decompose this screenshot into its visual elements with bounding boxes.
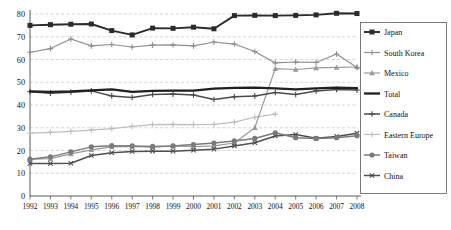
x-axis-label-1998: 1998 xyxy=(145,202,160,211)
series-point-south-korea-1992 xyxy=(27,49,33,55)
legend-item-eastern-europe[interactable]: Eastern Europe xyxy=(364,131,434,140)
chart-svg: 0102030405060708019921993199419951996199… xyxy=(0,0,451,230)
legend-item-south-korea[interactable]: South Korea xyxy=(364,49,425,58)
x-axis-label-2001: 2001 xyxy=(207,202,222,211)
series-point-canada-2001 xyxy=(211,97,217,103)
series-point-south-korea-1995 xyxy=(89,43,95,49)
series-point-eastern-europe-1999 xyxy=(170,122,176,128)
series-point-eastern-europe-1996 xyxy=(109,126,115,132)
series-point-south-korea-1997 xyxy=(129,44,135,50)
x-axis-label-1994: 1994 xyxy=(63,202,78,211)
series-point-japan-2003 xyxy=(252,13,257,18)
series-point-south-korea-2004 xyxy=(272,60,278,66)
y-axis-tick-10: 10 xyxy=(17,169,25,178)
y-axis-tick-50: 50 xyxy=(17,78,25,87)
series-point-south-korea-1999 xyxy=(170,42,176,48)
y-axis-tick-70: 70 xyxy=(17,33,25,42)
series-point-canada-1996 xyxy=(109,93,115,99)
series-taiwan xyxy=(27,130,359,162)
series-point-taiwan-2006 xyxy=(314,136,319,141)
x-axis-label-1999: 1999 xyxy=(166,202,181,211)
series-south-korea xyxy=(27,36,360,70)
series-point-japan-2005 xyxy=(293,13,298,18)
y-axis-tick-30: 30 xyxy=(17,124,25,133)
series-point-japan-1994 xyxy=(68,22,73,27)
series-point-japan-1998 xyxy=(150,26,155,31)
legend-item-total[interactable]: Total xyxy=(364,90,401,99)
series-line-total xyxy=(30,88,357,92)
x-axis-label-2003: 2003 xyxy=(247,202,262,211)
x-axis-label-2002: 2002 xyxy=(227,202,242,211)
legend-item-canada[interactable]: Canada xyxy=(364,110,408,119)
series-point-south-korea-2003 xyxy=(252,49,258,55)
legend-label-eastern-europe: Eastern Europe xyxy=(384,131,434,140)
x-axis-label-2005: 2005 xyxy=(288,202,303,211)
series-point-canada-2000 xyxy=(191,92,197,98)
series-point-south-korea-1993 xyxy=(48,46,54,52)
series-point-eastern-europe-2002 xyxy=(232,119,238,125)
series-point-japan-2004 xyxy=(273,13,278,18)
series-line-japan xyxy=(30,13,357,35)
series-point-canada-2004 xyxy=(272,90,278,96)
legend-label-total: Total xyxy=(384,90,401,99)
legend-marker-south-korea xyxy=(369,50,375,56)
legend-marker-japan xyxy=(370,30,375,35)
series-point-eastern-europe-1997 xyxy=(129,124,135,130)
legend-item-japan[interactable]: Japan xyxy=(364,28,402,37)
series-point-canada-2005 xyxy=(293,92,299,98)
series-point-south-korea-2000 xyxy=(191,43,197,49)
legend-item-taiwan[interactable]: Taiwan xyxy=(364,151,407,160)
x-axis-label-2007: 2007 xyxy=(329,202,344,211)
legend-marker-taiwan xyxy=(369,152,374,157)
series-point-japan-1999 xyxy=(171,26,176,31)
series-point-eastern-europe-1998 xyxy=(150,122,156,128)
series-point-taiwan-2007 xyxy=(334,135,339,140)
series-point-south-korea-2002 xyxy=(232,41,238,47)
chart-canvas: 0102030405060708019921993199419951996199… xyxy=(0,0,451,230)
x-axis-label-1996: 1996 xyxy=(104,202,119,211)
series-point-japan-2007 xyxy=(334,11,339,16)
line-chart: 0102030405060708019921993199419951996199… xyxy=(0,0,451,230)
series-point-taiwan-1997 xyxy=(130,143,135,148)
legend-item-china[interactable]: China xyxy=(364,172,404,181)
legend-marker-canada xyxy=(369,111,375,117)
series-point-south-korea-1994 xyxy=(68,36,74,42)
x-axis-label-1995: 1995 xyxy=(84,202,99,211)
series-point-eastern-europe-1993 xyxy=(48,130,54,136)
x-axis-label-1993: 1993 xyxy=(43,202,58,211)
x-axis-label-2008: 2008 xyxy=(350,202,365,211)
series-point-eastern-europe-2003 xyxy=(252,114,258,120)
series-point-taiwan-1994 xyxy=(68,149,73,154)
legend-label-japan: Japan xyxy=(384,28,402,37)
series-point-taiwan-1995 xyxy=(89,144,94,149)
legend-label-taiwan: Taiwan xyxy=(384,151,407,160)
series-point-japan-1993 xyxy=(48,22,53,27)
series-point-canada-1998 xyxy=(150,92,156,98)
series-point-japan-2000 xyxy=(191,25,196,30)
series-point-japan-1995 xyxy=(89,22,94,27)
series-point-south-korea-1998 xyxy=(150,42,156,48)
legend-item-mexico[interactable]: Mexico xyxy=(364,69,408,78)
series-point-japan-2002 xyxy=(232,13,237,18)
y-axis-tick-40: 40 xyxy=(17,101,25,110)
x-axis-label-2000: 2000 xyxy=(186,202,201,211)
series-point-taiwan-1999 xyxy=(170,143,175,148)
series-point-eastern-europe-2001 xyxy=(211,122,217,128)
legend-label-canada: Canada xyxy=(384,110,408,119)
x-axis-label-2004: 2004 xyxy=(268,202,283,211)
series-point-japan-2006 xyxy=(314,12,319,17)
legend-label-china: China xyxy=(384,172,404,181)
series-point-canada-1997 xyxy=(129,95,135,101)
x-axis-label-1997: 1997 xyxy=(125,202,140,211)
series-point-south-korea-2006 xyxy=(313,60,319,66)
series-point-taiwan-2008 xyxy=(354,133,359,138)
series-point-japan-2008 xyxy=(355,11,360,16)
series-japan xyxy=(28,11,360,38)
legend-label-south-korea: South Korea xyxy=(384,49,425,58)
series-point-taiwan-2005 xyxy=(293,135,298,140)
series-point-eastern-europe-1992 xyxy=(27,130,33,136)
series-point-japan-1997 xyxy=(130,32,135,37)
series-point-mexico-2003 xyxy=(252,125,258,130)
y-axis-tick-80: 80 xyxy=(17,10,25,19)
series-point-taiwan-1996 xyxy=(109,143,114,148)
